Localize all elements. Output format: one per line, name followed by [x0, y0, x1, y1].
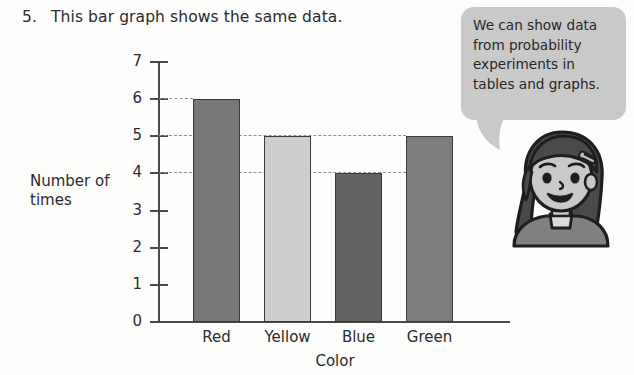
girl-character-illustration [496, 128, 628, 248]
y-tick-label-6: 6 [120, 89, 142, 107]
y-tick-2 [150, 247, 168, 249]
speech-bubble-text: We can show data from probability experi… [473, 16, 619, 94]
category-label-green: Green [392, 328, 467, 346]
x-axis-title: Color [290, 352, 380, 370]
y-tick-label-2: 2 [120, 238, 142, 256]
y-tick-label-7: 7 [120, 52, 142, 70]
y-axis-title: Number of times [30, 172, 130, 210]
category-label-blue: Blue [321, 328, 396, 346]
bar-yellow [264, 136, 311, 322]
speech-bubble: We can show data from probability experi… [461, 7, 626, 120]
worksheet-page: 5. This bar graph shows the same data. 0… [0, 0, 634, 375]
category-label-red: Red [179, 328, 254, 346]
y-tick-label-5: 5 [120, 126, 142, 144]
bar-blue [335, 173, 382, 322]
y-tick-3 [150, 210, 168, 212]
y-tick-label-0: 0 [120, 312, 142, 330]
bar-red [193, 99, 240, 322]
category-label-yellow: Yellow [250, 328, 325, 346]
y-tick-0 [150, 321, 168, 323]
y-tick-1 [150, 284, 168, 286]
bar-green [406, 136, 453, 322]
y-tick-7 [150, 61, 168, 63]
gridline-6 [159, 98, 193, 99]
y-tick-label-1: 1 [120, 275, 142, 293]
